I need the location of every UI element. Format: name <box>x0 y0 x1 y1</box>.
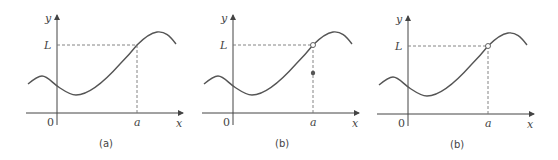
limit-label: L <box>43 39 51 52</box>
y-axis-label: y <box>220 12 228 25</box>
a-label: a <box>134 116 141 129</box>
panel-c: y L 0 a x (b) <box>377 13 534 150</box>
limit-diagrams: y L 0 a x (a) y L 0 a x (b) y L 0 a x (b… <box>0 0 558 160</box>
origin-label: 0 <box>47 116 54 129</box>
a-label: a <box>485 117 492 130</box>
caption: (b) <box>275 138 289 149</box>
origin-label: 0 <box>398 117 405 130</box>
panel-b: y L 0 a x (b) <box>202 12 359 149</box>
caption: (b) <box>450 139 464 150</box>
panel-a: y L 0 a x (a) <box>26 12 183 149</box>
origin-label: 0 <box>223 116 230 129</box>
a-label: a <box>310 116 317 129</box>
filled-point-marker <box>311 71 315 75</box>
y-axis-label: y <box>44 12 52 25</box>
limit-label: L <box>219 39 227 52</box>
open-circle-marker <box>311 43 316 48</box>
open-circle-marker <box>486 44 491 49</box>
y-axis-label: y <box>395 13 403 26</box>
limit-label: L <box>394 40 402 53</box>
x-axis-label: x <box>527 118 534 131</box>
x-axis-label: x <box>352 117 359 130</box>
caption: (a) <box>99 138 113 149</box>
x-axis-label: x <box>176 117 183 130</box>
